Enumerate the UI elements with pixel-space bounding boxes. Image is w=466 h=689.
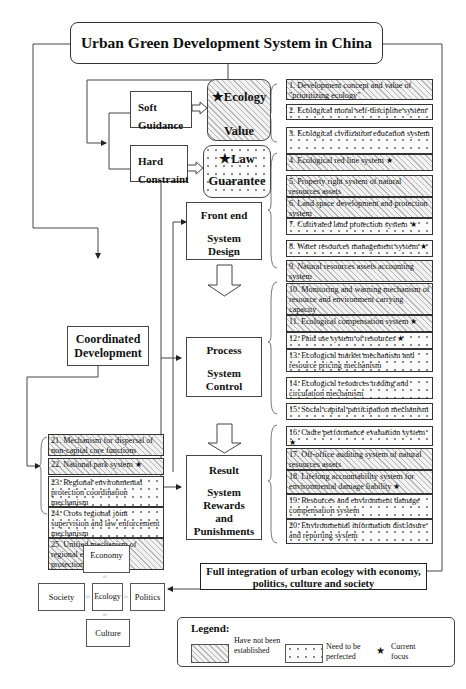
integration-line-2: politics, culture and society [201, 578, 426, 590]
item-5: 5. Property right system of natural reso… [286, 175, 433, 197]
coordinated-development-box: Coordinated Development [67, 326, 149, 366]
integration-line-1: Full integration of urban ecology with e… [201, 566, 426, 578]
politics-box: Politics [130, 583, 165, 611]
culture-box: Culture [86, 619, 130, 647]
front-end-label: Front end [187, 209, 261, 222]
item-14: 14. Ecological resources trading and cir… [286, 377, 433, 399]
legend-label-current-focus: Current focus [391, 642, 431, 661]
item-9: 9. Natural resources assets accounting s… [286, 260, 433, 282]
result-label: Result [187, 464, 261, 477]
item-4: 4. Ecological red line system ★ [286, 154, 433, 171]
item-2: 2. Ecological moral self-discipline syst… [286, 104, 433, 120]
item-18: 18. Lifelong accountability system for e… [286, 470, 433, 494]
legend-label-need-perfected: Need to be perfected [326, 642, 374, 661]
system-label: System [187, 486, 261, 499]
punishments-label: Punishments [187, 525, 261, 538]
coordinated-development-label: Coordinated Development [68, 332, 148, 360]
item-11: 11. Ecological compensation system ★ [286, 315, 433, 332]
item-8: 8. Water resources management system ★ [286, 240, 433, 257]
value-label: Value [208, 124, 270, 139]
process-label: Process [187, 344, 261, 357]
process-box: Process System Control [186, 337, 262, 397]
rewards-label: Rewards [187, 499, 261, 512]
item-20: 20. Environmental information disclosure… [286, 519, 433, 544]
economy-box: Economy [83, 545, 130, 573]
soft-guidance-label: Soft Guidance [138, 101, 183, 131]
item-24: 24. Cross regional joint supervision and… [48, 507, 164, 538]
item-21: 21. Mechanism for dispersal of non-capit… [48, 434, 164, 456]
result-box: Result System Rewards and Punishments [186, 455, 262, 540]
item-1: 1. Development concept and value of "pri… [286, 79, 433, 100]
system-label: System [187, 367, 261, 380]
front-end-box: Front end System Design [186, 202, 262, 260]
item-10: 10. Monitoring and warning mechanism of … [286, 283, 433, 315]
item-17: 17. Off-office auditing system of natura… [286, 448, 433, 470]
item-13: 13. Ecological market mechanism and reso… [286, 349, 433, 372]
ecology-label: ★Ecology [208, 89, 270, 105]
legend-box: Legend: Have not been established Need t… [177, 617, 455, 667]
legend-label-not-established: Have not been established [234, 636, 284, 655]
title-box: Urban Green Development System in China [70, 22, 383, 64]
star-icon: ★ [376, 645, 385, 656]
design-label: Design [187, 245, 261, 258]
guarantee-label: Guarantee [204, 174, 270, 189]
legend-swatch-not-established [191, 644, 229, 663]
item-6: 6. Land space development and protection… [286, 197, 433, 218]
hard-constraint-box: Hard Constraint [130, 145, 188, 182]
soft-guidance-box: Soft Guidance [130, 91, 192, 128]
item-19: 19. Resources and environment damage com… [286, 494, 433, 519]
system-label: System [187, 232, 261, 245]
hard-constraint-label: Hard Constraint [138, 155, 189, 185]
connector-ecology-politics: ≈ [124, 593, 128, 601]
and-label: and [187, 512, 261, 525]
item-7: 7. Cultivated land protection system ★ [286, 218, 433, 235]
connector-economy-ecology: ≈ [103, 573, 107, 581]
page-title: Urban Green Development System in China [81, 34, 372, 52]
connector-society-ecology: ≈ [86, 593, 90, 601]
law-label: ★Law [204, 151, 270, 167]
ecology-value-box: ★Ecology Value [207, 79, 271, 141]
law-guarantee-box: ★Law Guarantee [203, 145, 271, 198]
item-23: 23. Regional environmental protection co… [48, 476, 164, 507]
item-22: 22. National park system ★ [48, 458, 164, 475]
legend-title: Legend: [191, 622, 230, 634]
connector-ecology-culture: ≈ [103, 611, 107, 619]
legend-swatch-need-perfected [285, 644, 323, 663]
item-16: 16. Cadre performance evaluation system … [286, 426, 433, 446]
item-15: 15. Social capital participation mechani… [286, 403, 433, 420]
control-label: Control [187, 380, 261, 393]
society-box: Society [38, 583, 85, 611]
ecology-box: Ecology [92, 583, 123, 611]
integration-box: Full integration of urban ecology with e… [200, 563, 427, 590]
item-12: 12. Paid use system of resources ★ [286, 332, 433, 349]
item-3: 3. Ecological civilization education sys… [286, 127, 433, 154]
